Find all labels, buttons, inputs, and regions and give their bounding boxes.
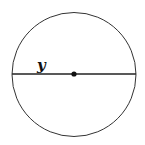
circle-diagram: y (0, 0, 145, 145)
diameter-label: y (36, 56, 47, 74)
center-point (71, 71, 76, 76)
